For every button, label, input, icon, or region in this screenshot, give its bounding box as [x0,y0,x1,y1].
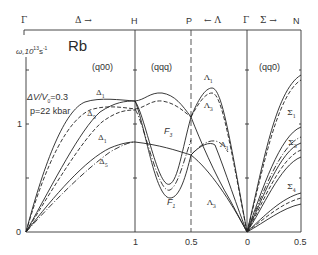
branch-label-F1: F1 [167,198,175,211]
top-label-P: P [186,17,192,26]
dv-value: =0.3 [50,92,68,102]
x-tick-0.5-a: 0.5 [185,238,198,247]
top-label-delta: Δ → [75,16,92,25]
frame [24,30,301,232]
y-axis-unit-exp: -1 [43,45,47,51]
label-q00: (q00) [92,63,113,72]
branch-label-delta5-upper: Δ5 [87,109,96,122]
label-qq0: (qq0) [259,63,280,72]
volume-change-annotation: ΔV/V0=0.3 [27,93,68,106]
dispersion-plot [0,0,318,255]
branch-label-sigma1: Σ1 [287,108,296,121]
branch-label-delta1-upper: Δ1 [96,88,105,101]
delta-branches [26,99,135,232]
y-tick-1: 1 [17,120,22,129]
branch-label-lambda1-upper: Λ1 [204,73,213,86]
x-tick-0: 0 [245,238,250,247]
top-label-gamma: Γ [21,16,27,25]
branch-label-lambda1-lower: Λ1 [220,140,229,153]
lambda-branches [191,88,247,232]
branch-label-F3: F3 [164,127,172,140]
label-qqq: (qqq) [151,63,172,72]
x-tick-1: 1 [133,238,138,247]
top-label-sigma: Σ → [260,16,277,25]
top-label-lambda: ← Λ [204,16,221,25]
branch-label-delta5-lower: Δ5 [99,157,108,170]
ticks [26,70,301,178]
branch-label-lambda3-lower: Λ3 [207,198,216,211]
top-label-H: H [131,17,138,26]
top-label-gamma-2: Γ [243,16,249,25]
branch-label-sigma4: Σ4 [287,182,296,195]
pressure-annotation: p=22 kbar [30,107,70,116]
x-tick-0.5-b: 0.5 [294,238,307,247]
y-tick-0: 0 [16,228,21,237]
y-axis-omega: ω,10 [16,47,33,56]
sigma-branches [247,75,301,232]
chart-title: Rb [68,38,87,53]
branch-label-sigma3: Σ3 [288,138,297,151]
branch-label-delta1-lower: Δ1 [98,133,107,146]
dv-text: ΔV/V [27,92,48,102]
top-label-N: N [293,17,300,26]
pressure-text: p=22 kbar [30,106,70,116]
y-axis-label: ω,1013s-1 [16,44,47,56]
branch-label-lambda3-upper: Λ3 [204,101,213,114]
